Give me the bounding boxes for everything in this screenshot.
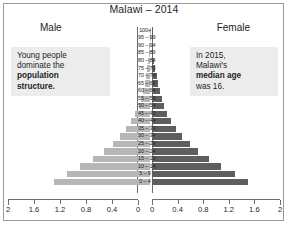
axis-tick	[178, 200, 179, 204]
bar-female	[152, 126, 176, 132]
x-axis-female-ticklabels: 00.40.81.21.62	[152, 205, 280, 219]
x-axis-male-ticklabels: 21.61.20.80.40	[8, 205, 138, 219]
axis-tick	[86, 200, 87, 204]
axis-tick-label: 2	[6, 205, 10, 214]
bar-female	[152, 148, 198, 154]
bar-female	[152, 133, 182, 139]
axis-tick-label: 1.6	[249, 205, 260, 214]
axis-tick-label: 0.4	[107, 205, 118, 214]
axis-tick-label: 0.4	[172, 205, 183, 214]
axis-tick	[229, 200, 230, 204]
axis-tick	[60, 200, 61, 204]
bar-female	[152, 156, 209, 162]
axis-tick-label: 0.8	[198, 205, 209, 214]
axis-tick-label: 0.8	[81, 205, 92, 214]
pyramid-row: 0 – 4	[0, 178, 288, 186]
axis-tick	[254, 200, 255, 204]
chart-title: Malawi – 2014	[0, 3, 288, 15]
axis-tick-label: 0	[136, 205, 140, 214]
age-group-label: 0 – 4	[138, 178, 152, 186]
bar-female	[152, 141, 190, 147]
bar-female	[152, 179, 248, 185]
axis-tick	[34, 200, 35, 204]
axis-tick	[112, 200, 113, 204]
axis-tick-label: 1.6	[29, 205, 40, 214]
bar-male	[54, 179, 150, 185]
axis-tick-label: 2	[278, 205, 282, 214]
bar-female	[152, 171, 235, 177]
axis-tick-label: 0	[150, 205, 154, 214]
axis-tick-label: 1.2	[55, 205, 66, 214]
population-pyramid-plot: 100+95 – 9990 – 9485 – 8980 – 8475 – 797…	[0, 27, 288, 199]
axis-tick-label: 1.2	[224, 205, 235, 214]
axis-tick	[203, 200, 204, 204]
bar-female	[152, 163, 221, 169]
